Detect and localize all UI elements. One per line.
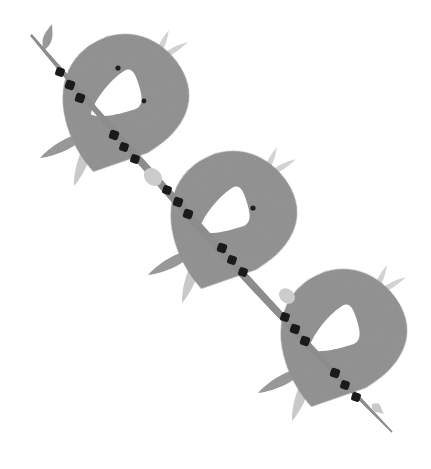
- bird eye dot: [250, 205, 255, 210]
- bird-branch-illustration: [0, 0, 431, 469]
- bird eye dot: [142, 99, 147, 104]
- bird eye dot: [115, 65, 120, 70]
- illustration-canvas: [0, 0, 431, 469]
